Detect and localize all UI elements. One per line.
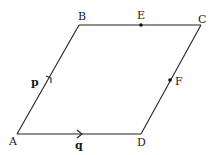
label-vector-q: q [75, 139, 83, 152]
label-f: F [175, 75, 183, 88]
edge-ab [17, 25, 79, 134]
label-a: A [8, 135, 18, 148]
label-e: E [137, 9, 145, 22]
parallelogram-diagram: A B C D E F p q [0, 0, 209, 155]
point-e [139, 23, 143, 27]
label-d: D [137, 136, 146, 149]
label-c: C [198, 13, 206, 26]
label-vector-p: p [31, 76, 39, 89]
point-f [168, 78, 172, 82]
label-b: B [78, 10, 86, 23]
